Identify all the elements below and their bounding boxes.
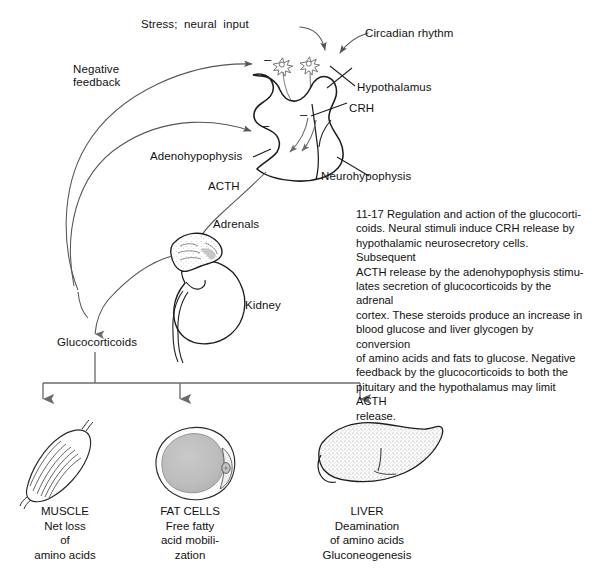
- fat-cell-illustration: [156, 427, 235, 499]
- glucocorticoid-regulation-figure: Stress; neural input Circadian rhythm Ne…: [0, 0, 592, 583]
- adrenal-and-kidney: [171, 233, 245, 363]
- label-kidney: Kidney: [245, 299, 281, 312]
- target-caption-fat-cells: FAT CELLS Free fatty acid mobili- zation: [125, 504, 255, 562]
- target-caption-liver: LIVER Deamination of amino acids Glucone…: [292, 504, 442, 562]
- label-glucocorticoids: Glucocorticoids: [57, 336, 137, 349]
- circadian-rhythm-arrow: [340, 33, 368, 53]
- glucocorticoid-output: [95, 256, 172, 334]
- figure-caption: 11-17 Regulation and action of the gluco…: [356, 207, 588, 423]
- label-stress-neural-input: Stress; neural input: [141, 18, 249, 31]
- label-acth: ACTH: [208, 180, 240, 193]
- minus-sign-hypothalamus: –: [264, 52, 271, 67]
- label-neurohypophysis: Neurohypophysis: [321, 170, 411, 183]
- label-circadian-rhythm: Circadian rhythm: [365, 27, 454, 40]
- label-adenohypophysis: Adenohypophysis: [150, 150, 242, 163]
- label-crh: CRH: [349, 102, 374, 115]
- label-hypothalamus: Hypothalamus: [357, 81, 432, 94]
- label-negative-feedback: Negative feedback: [73, 63, 120, 89]
- target-caption-muscle: MUSCLE Net loss of amino acids: [0, 504, 130, 562]
- label-adrenals: Adrenals: [213, 218, 259, 231]
- minus-sign-adenohypophysis: –: [262, 118, 269, 133]
- distribution-tree: [43, 352, 360, 399]
- stress-input-arrow: [300, 27, 325, 50]
- liver-illustration: [318, 423, 443, 483]
- muscle-illustration: [20, 420, 93, 509]
- minus-sign-median-eminence: –: [300, 107, 307, 122]
